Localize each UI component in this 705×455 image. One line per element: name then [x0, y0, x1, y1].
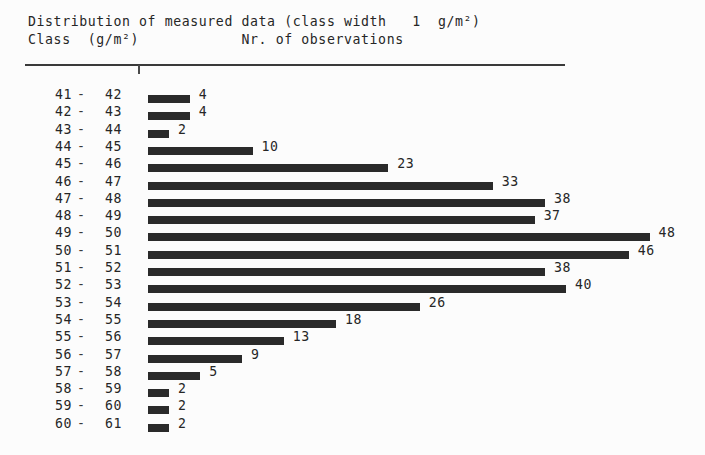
class-range-dash: -	[77, 123, 85, 137]
histogram-chart: 41-42442-43443-44244-451045-462346-47334…	[0, 88, 705, 448]
bar-value-label: 9	[251, 348, 259, 362]
class-lower-bound: 49	[46, 226, 72, 240]
class-lower-bound: 42	[46, 105, 72, 119]
bar-value-label: 46	[638, 244, 655, 258]
class-upper-bound: 52	[96, 261, 122, 275]
histogram-row: 59-602	[0, 399, 705, 416]
class-range-dash: -	[77, 226, 85, 240]
bar-value-label: 33	[502, 175, 519, 189]
histogram-row: 54-5518	[0, 313, 705, 330]
histogram-row: 56-579	[0, 348, 705, 365]
class-range-dash: -	[77, 330, 85, 344]
class-range-dash: -	[77, 348, 85, 362]
histogram-bar	[148, 112, 190, 120]
histogram-bar	[148, 182, 493, 190]
bar-value-label: 40	[575, 278, 592, 292]
class-upper-bound: 43	[96, 105, 122, 119]
class-upper-bound: 51	[96, 244, 122, 258]
class-upper-bound: 58	[96, 365, 122, 379]
class-upper-bound: 49	[96, 209, 122, 223]
bar-value-label: 2	[178, 382, 186, 396]
chart-header: Distribution of measured data (class wid…	[28, 13, 688, 49]
histogram-bar	[148, 147, 253, 155]
class-upper-bound: 53	[96, 278, 122, 292]
class-upper-bound: 45	[96, 140, 122, 154]
bar-value-label: 4	[199, 88, 207, 102]
class-range-dash: -	[77, 175, 85, 189]
class-range-dash: -	[77, 365, 85, 379]
class-lower-bound: 46	[46, 175, 72, 189]
class-upper-bound: 61	[96, 417, 122, 431]
class-upper-bound: 55	[96, 313, 122, 327]
bar-value-label: 5	[209, 365, 217, 379]
class-lower-bound: 50	[46, 244, 72, 258]
class-lower-bound: 53	[46, 296, 72, 310]
rule-tick-mark	[138, 65, 140, 74]
histogram-bar	[148, 320, 336, 328]
class-range-dash: -	[77, 382, 85, 396]
bar-value-label: 48	[659, 226, 676, 240]
histogram-row: 47-4838	[0, 192, 705, 209]
class-lower-bound: 55	[46, 330, 72, 344]
histogram-row: 53-5426	[0, 296, 705, 313]
class-upper-bound: 59	[96, 382, 122, 396]
class-range-dash: -	[77, 313, 85, 327]
bar-value-label: 23	[397, 157, 414, 171]
class-range-dash: -	[77, 399, 85, 413]
histogram-bar	[148, 285, 566, 293]
histogram-row: 43-442	[0, 123, 705, 140]
class-lower-bound: 58	[46, 382, 72, 396]
class-range-dash: -	[77, 417, 85, 431]
class-upper-bound: 44	[96, 123, 122, 137]
class-upper-bound: 42	[96, 88, 122, 102]
class-upper-bound: 60	[96, 399, 122, 413]
histogram-bar	[148, 95, 190, 103]
bar-value-label: 2	[178, 399, 186, 413]
class-lower-bound: 56	[46, 348, 72, 362]
histogram-bar	[148, 130, 169, 138]
class-lower-bound: 43	[46, 123, 72, 137]
histogram-row: 45-4623	[0, 157, 705, 174]
class-lower-bound: 60	[46, 417, 72, 431]
histogram-row: 46-4733	[0, 175, 705, 192]
histogram-row: 49-5048	[0, 226, 705, 243]
class-upper-bound: 57	[96, 348, 122, 362]
histogram-bar	[148, 303, 420, 311]
class-upper-bound: 56	[96, 330, 122, 344]
histogram-row: 50-5146	[0, 244, 705, 261]
histogram-bar	[148, 199, 545, 207]
class-range-dash: -	[77, 192, 85, 206]
histogram-row: 52-5340	[0, 278, 705, 295]
document-sheet: Distribution of measured data (class wid…	[0, 0, 705, 455]
header-rule	[25, 64, 565, 66]
bar-value-label: 4	[199, 105, 207, 119]
column-headers: Class (g/m²) Nr. of observations	[28, 31, 688, 49]
bar-value-label: 38	[554, 261, 571, 275]
bar-value-label: 18	[345, 313, 362, 327]
histogram-bar	[148, 372, 200, 380]
class-lower-bound: 59	[46, 399, 72, 413]
histogram-row: 44-4510	[0, 140, 705, 157]
histogram-row: 60-612	[0, 417, 705, 434]
class-range-dash: -	[77, 244, 85, 258]
class-lower-bound: 45	[46, 157, 72, 171]
histogram-bar	[148, 337, 284, 345]
class-upper-bound: 47	[96, 175, 122, 189]
class-range-dash: -	[77, 261, 85, 275]
bar-value-label: 2	[178, 417, 186, 431]
class-upper-bound: 54	[96, 296, 122, 310]
histogram-bar	[148, 216, 535, 224]
class-range-dash: -	[77, 278, 85, 292]
histogram-bar	[148, 355, 242, 363]
histogram-bar	[148, 233, 650, 241]
bar-value-label: 10	[262, 140, 279, 154]
histogram-row: 57-585	[0, 365, 705, 382]
page-title: Distribution of measured data (class wid…	[28, 13, 688, 31]
histogram-bar	[148, 251, 629, 259]
histogram-bar	[148, 164, 388, 172]
histogram-row: 42-434	[0, 105, 705, 122]
class-upper-bound: 46	[96, 157, 122, 171]
class-range-dash: -	[77, 209, 85, 223]
class-lower-bound: 41	[46, 88, 72, 102]
histogram-row: 48-4937	[0, 209, 705, 226]
